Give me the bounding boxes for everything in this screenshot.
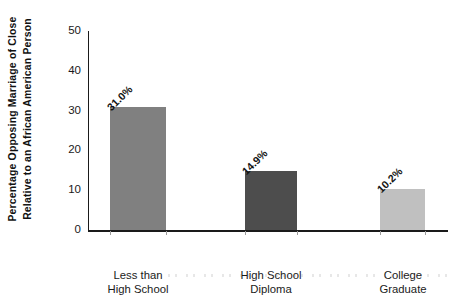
y-axis-title-text: Percentage Opposing Marriage of Close Re… [6,16,35,221]
y-tick-label-20: 20 [68,145,81,157]
y-tick-label-30: 30 [68,105,81,117]
y-axis-title-line-2: Relative to an African American Person [20,16,35,221]
y-tick-label-0: 0 [75,224,81,236]
plot-area: 01020304050 31.0%14.9%10.2% Less thanHig… [88,31,448,231]
x-axis-line [88,230,448,232]
y-tick-label-10: 10 [68,184,81,196]
x-tick-2-2 [297,231,298,235]
x-tick-3-1 [380,231,381,235]
y-tick-label-50: 50 [68,25,81,37]
x-tick-1-1 [110,231,111,235]
bar-1[interactable] [110,107,166,230]
bar-2[interactable] [245,171,297,230]
x-tick-1-2 [166,231,167,235]
y-axis-title-line-1: Percentage Opposing Marriage of Close [6,16,21,221]
y-axis-line [88,31,89,231]
x-tick-3-2 [425,231,426,235]
x-tick-2-1 [245,231,246,235]
category-label-3-line-2: Graduate [379,283,426,296]
y-axis-title: Percentage Opposing Marriage of Close Re… [0,0,40,238]
category-label-1-line-2: High School [108,283,169,296]
category-label-2-line-2: Diploma [241,283,302,296]
bar-3[interactable] [380,189,425,230]
y-tick-label-40: 40 [68,65,81,77]
scan-artifact [150,274,450,277]
